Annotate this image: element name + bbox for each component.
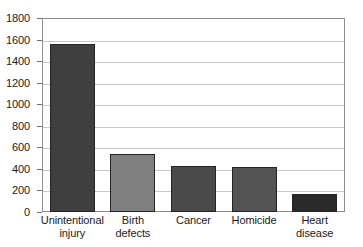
x-tick-label: Heartdisease	[276, 214, 353, 240]
bar	[232, 167, 277, 212]
x-tick-label-line1: Homicide	[232, 214, 277, 226]
x-tick-label-line1: Birth	[122, 214, 144, 226]
y-tick-mark	[37, 190, 42, 191]
y-tick-mark	[37, 40, 42, 41]
y-tick-mark	[37, 83, 42, 84]
y-tick-mark	[37, 104, 42, 105]
y-tick-mark	[37, 169, 42, 170]
y-tick-label: 400	[12, 163, 30, 175]
y-tick-label: 1400	[6, 55, 30, 67]
bar	[171, 166, 216, 212]
bar	[110, 154, 155, 212]
y-tick-label: 1200	[6, 77, 30, 89]
y-tick-mark	[37, 61, 42, 62]
y-tick-label: 1000	[6, 98, 30, 110]
x-axis: UnintentionalinjuryBirthdefectsCancerHom…	[42, 214, 345, 247]
y-tick-mark	[37, 147, 42, 148]
y-tick-label: 800	[12, 120, 30, 132]
y-axis: 020040060080010001200140016001800	[0, 18, 36, 212]
y-tick-label: 1800	[6, 12, 30, 24]
bar-chart-figure: 020040060080010001200140016001800 Uninte…	[0, 0, 363, 247]
y-tick-mark	[37, 126, 42, 127]
y-tick-mark	[37, 18, 42, 19]
y-tick-label: 0	[24, 206, 30, 218]
x-tick-label-line2: disease	[276, 227, 353, 240]
y-tick-mark	[37, 212, 42, 213]
y-tick-label: 200	[12, 184, 30, 196]
x-tick-label-line1: Cancer	[176, 214, 211, 226]
bar	[292, 194, 337, 212]
bar	[50, 44, 95, 212]
y-tick-label: 1600	[6, 34, 30, 46]
y-tick-label: 600	[12, 141, 30, 153]
x-tick-label-line1: Heart	[301, 214, 327, 226]
x-tick-label-line2: defects	[95, 227, 172, 240]
bars-layer	[42, 18, 345, 212]
